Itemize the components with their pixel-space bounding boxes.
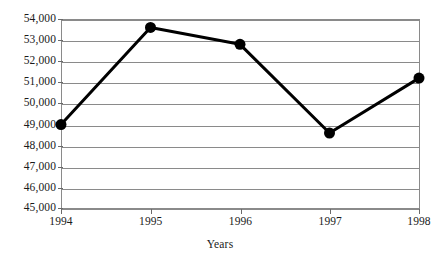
ytick-mark-52000 — [58, 61, 63, 62]
gridline-53000 — [62, 41, 419, 42]
ytick-label: 48,000 — [0, 140, 56, 152]
gridline-51000 — [62, 83, 419, 84]
gridline-48000 — [62, 147, 419, 148]
gridline-49000 — [62, 126, 419, 127]
xtick-mark-1996 — [241, 209, 242, 214]
gridline-54000 — [62, 20, 419, 21]
ytick-mark-51000 — [58, 82, 63, 83]
gridline-46000 — [62, 189, 419, 190]
ytick-mark-49000 — [58, 125, 63, 126]
xtick-label: 1995 — [116, 216, 186, 228]
ytick-label: 51,000 — [0, 76, 56, 88]
ytick-mark-46000 — [58, 188, 63, 189]
xtick-mark-1994 — [61, 209, 62, 214]
ytick-label: 45,000 — [0, 202, 56, 214]
ytick-mark-54000 — [58, 19, 63, 20]
gridline-47000 — [62, 168, 419, 169]
x-axis-title: Years — [0, 238, 440, 250]
ytick-mark-50000 — [58, 103, 63, 104]
ytick-label: 46,000 — [0, 182, 56, 194]
ytick-label: 53,000 — [0, 34, 56, 46]
ytick-label: 49,000 — [0, 119, 56, 131]
xtick-label: 1998 — [384, 216, 440, 228]
gridline-50000 — [62, 104, 419, 105]
ytick-label: 52,000 — [0, 55, 56, 67]
xtick-label: 1996 — [206, 216, 276, 228]
gridline-52000 — [62, 62, 419, 63]
ytick-mark-48000 — [58, 146, 63, 147]
xtick-mark-1995 — [151, 209, 152, 214]
ytick-label: 54,000 — [0, 13, 56, 25]
xtick-mark-1997 — [330, 209, 331, 214]
ytick-mark-47000 — [58, 167, 63, 168]
xtick-label: 1994 — [26, 216, 96, 228]
xtick-label: 1997 — [295, 216, 365, 228]
line-chart: 54,000 53,000 52,000 51,000 50,000 49,00… — [0, 0, 440, 263]
xtick-mark-1998 — [419, 209, 420, 214]
ytick-mark-53000 — [58, 40, 63, 41]
plot-area — [61, 19, 420, 209]
ytick-label: 50,000 — [0, 97, 56, 109]
ytick-label: 47,000 — [0, 161, 56, 173]
